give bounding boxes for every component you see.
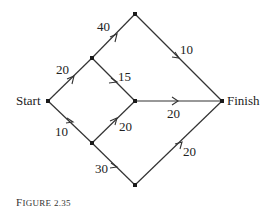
weight-top-finish: 10 xyxy=(180,42,193,57)
start-label: Start xyxy=(16,93,41,108)
node-b xyxy=(90,141,94,145)
weight-bottom-finish: 20 xyxy=(183,144,196,159)
node-c xyxy=(133,99,137,103)
weight-a-c: 15 xyxy=(118,69,131,84)
edge-start-a xyxy=(48,58,92,101)
arrow-icon xyxy=(109,78,117,83)
weight-start-a: 20 xyxy=(56,62,69,77)
weight-c-finish: 20 xyxy=(167,106,180,121)
finish-label: Finish xyxy=(227,93,260,108)
node-a xyxy=(90,56,94,60)
weight-start-b: 10 xyxy=(55,124,68,139)
node-finish xyxy=(220,99,224,103)
weight-a-top: 40 xyxy=(97,19,110,34)
weight-b-c: 20 xyxy=(119,119,132,134)
node-start xyxy=(46,99,50,103)
figure-caption: FIGURE 2.35 xyxy=(16,196,71,208)
weight-b-bottom: 30 xyxy=(95,161,108,176)
caption-rest: IGURE 2.35 xyxy=(22,198,71,208)
network-diagram: Start Finish 20 40 15 10 10 20 20 30 20 … xyxy=(0,0,280,211)
node-bottom xyxy=(133,183,137,187)
node-top xyxy=(133,12,137,16)
